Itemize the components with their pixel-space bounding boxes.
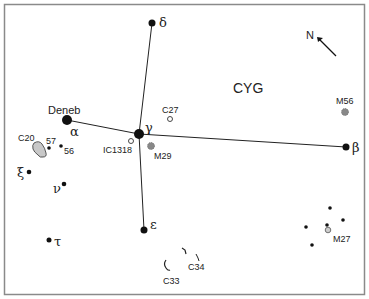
cluster-m29-icon — [148, 143, 155, 150]
constellation-name: CYG — [233, 80, 263, 96]
label-57: 57 — [46, 136, 56, 146]
label-c20: C20 — [18, 133, 35, 143]
label-nu: ν — [53, 181, 61, 196]
label-ic1318: IC1318 — [103, 145, 132, 155]
label-m27: M27 — [333, 234, 351, 244]
nebula-m27 — [325, 227, 331, 233]
label-beta: β — [352, 140, 360, 155]
star-delta — [149, 20, 156, 27]
label-north: N — [306, 29, 314, 41]
label-gamma: γ — [145, 120, 153, 135]
label-deneb: Deneb — [48, 104, 80, 116]
star-chart: δ Deneb α γ β ε ξ ν τ 57 56 C20 C27 IC13… — [0, 0, 369, 299]
star-56 — [59, 144, 63, 148]
label-c27: C27 — [162, 105, 179, 115]
label-delta: δ — [159, 15, 167, 30]
star-57 — [47, 146, 51, 150]
star-gamma — [134, 129, 144, 139]
label-56: 56 — [64, 146, 74, 156]
label-epsilon: ε — [150, 217, 157, 232]
star-xi — [27, 170, 32, 175]
label-m56: M56 — [336, 96, 354, 106]
star-epsilon — [141, 227, 148, 234]
label-c33: C33 — [163, 276, 180, 286]
label-tau: τ — [54, 234, 61, 249]
cluster-m56-icon — [342, 109, 349, 116]
star-nu — [62, 182, 67, 187]
label-xi: ξ — [17, 165, 24, 180]
label-c34: C34 — [188, 262, 205, 272]
chart-border — [5, 5, 365, 295]
star-beta — [343, 144, 350, 151]
label-m29: M29 — [154, 151, 172, 161]
star-tau — [47, 238, 52, 243]
label-alpha: α — [70, 124, 79, 139]
